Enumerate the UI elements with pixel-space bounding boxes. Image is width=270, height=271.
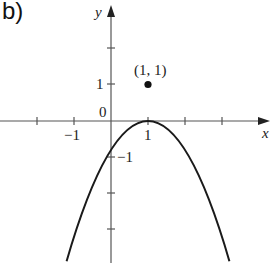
figure: b) x y 0 −1 1 <box>0 0 270 271</box>
x-axis-label: x <box>261 125 269 141</box>
vertex-point-label: (1, 1) <box>134 62 167 79</box>
origin-label: 0 <box>99 104 107 120</box>
plot-area: x y 0 −1 1 1 −1 (1, 1) <box>0 0 270 271</box>
vertex-point <box>144 81 151 88</box>
y-tick-label-neg1: −1 <box>117 149 133 165</box>
x-tick-label-neg1: −1 <box>64 127 80 143</box>
y-tick-label-1: 1 <box>96 76 104 92</box>
x-axis-arrow-icon <box>258 117 270 125</box>
x-tick-label-1: 1 <box>144 127 152 143</box>
panel-label: b) <box>2 0 23 25</box>
y-axis-label: y <box>93 4 102 20</box>
y-axis-arrow-icon <box>107 5 115 17</box>
